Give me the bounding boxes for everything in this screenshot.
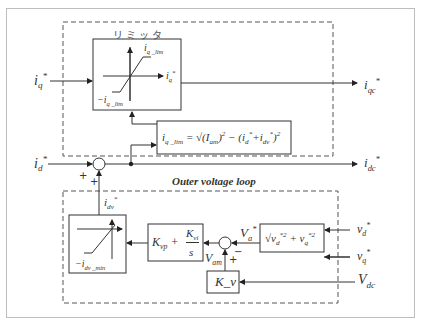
sum-sign-plus-1: +: [79, 170, 87, 181]
branch-node: [129, 162, 133, 166]
pi-formula: Kvp +: [152, 236, 178, 251]
iq-lim-upper-label: iq _lim: [144, 43, 163, 56]
pi-denominator: s: [189, 247, 193, 258]
vdc-label: Vdc: [358, 273, 375, 290]
sum-sign-minus-va: −: [234, 246, 242, 257]
vq-ref-label: vq*: [357, 249, 370, 265]
vam-label: Vam: [205, 252, 222, 267]
iqc-ref-label: iqc*: [364, 77, 380, 94]
sum-junction-va: [219, 237, 231, 249]
pi-numerator: Kvi: [186, 228, 199, 243]
idv-min-label: −idv _min: [75, 259, 105, 272]
iq-lim-lower-label: −iq _lim: [97, 95, 123, 108]
idv-ref-label: idv*: [104, 196, 117, 211]
sum-junction-id: [93, 158, 105, 170]
vd-ref-label: vd*: [357, 222, 370, 238]
id-ref-label: id*: [34, 155, 47, 174]
outer-loop-title: Outer voltage loop: [172, 175, 256, 187]
kv-label: K_v: [215, 275, 236, 288]
idc-ref-label: idc*: [364, 155, 380, 172]
iq-lim-formula: iq _lim = √(Iam)2 − (id*+idv*)2: [162, 131, 280, 146]
limiter-title: リミッタ: [113, 27, 165, 42]
magnitude-formula: √vd*2 + vq*2: [265, 232, 315, 247]
iq-ref-label: iq*: [34, 72, 47, 91]
va-ref-label: Va*: [240, 225, 256, 242]
sum-sign-plus-2: +: [90, 176, 98, 187]
iq-axis-label: iq*: [166, 70, 175, 84]
